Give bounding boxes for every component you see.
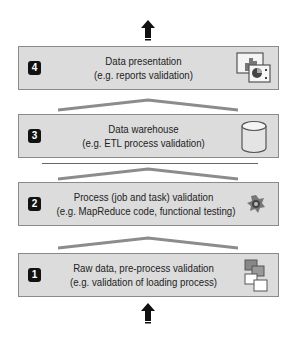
- layer-title: Data presentation: [57, 54, 231, 68]
- gear-process-icon: [246, 194, 266, 214]
- layer-number-badge: 4: [28, 61, 41, 75]
- layer-subtitle: (e.g. reports validation): [57, 68, 231, 82]
- layer-1-raw-data: 1 Raw data, pre-process validation (e.g.…: [18, 253, 279, 297]
- layer-4-data-presentation: 4 Data presentation (e.g. reports valida…: [18, 46, 279, 90]
- layer-subtitle: (e.g. MapReduce code, functional testing…: [57, 204, 231, 218]
- layer-3-data-warehouse: 3 Data warehouse (e.g. ETL process valid…: [18, 114, 279, 158]
- divider-line: [42, 163, 258, 164]
- stacked-files-icon: [244, 259, 270, 293]
- layer-title: Raw data, pre-process validation: [57, 261, 231, 275]
- input-arrow-up-icon: [141, 303, 155, 325]
- layer-number-badge: 1: [28, 268, 41, 282]
- output-arrow-up-icon: [141, 20, 155, 42]
- layer-title: Process (job and task) validation: [57, 190, 231, 204]
- layer-subtitle: (e.g. validation of loading process): [57, 275, 231, 289]
- layer-connector: [58, 167, 238, 181]
- layer-number-badge: 3: [28, 129, 41, 143]
- database-cylinder-icon: [240, 120, 268, 154]
- report-chart-icon: [236, 51, 272, 85]
- layer-subtitle: (e.g. ETL process validation): [57, 136, 231, 150]
- layer-2-process-validation: 2 Process (job and task) validation (e.g…: [18, 182, 279, 226]
- layer-connector: [58, 236, 238, 250]
- layer-connector: [58, 98, 238, 112]
- layer-number-badge: 2: [28, 197, 41, 211]
- layer-title: Data warehouse: [57, 122, 231, 136]
